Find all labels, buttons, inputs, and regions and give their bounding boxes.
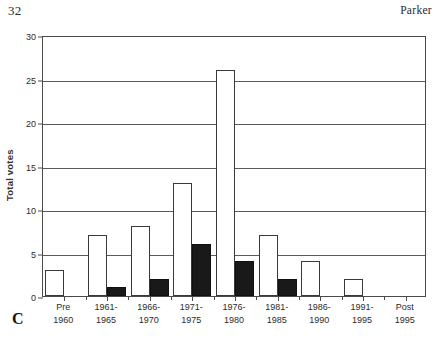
y-tick-mark <box>38 298 43 299</box>
x-category-label-line: 1971- <box>180 301 203 314</box>
x-category-label: 1981-1985 <box>265 301 288 327</box>
y-tick-label: 15 <box>26 163 36 173</box>
x-tick-mark-minor <box>86 296 87 300</box>
y-tick-label: 10 <box>26 206 36 216</box>
x-category-label-line: 1995 <box>395 314 415 327</box>
plot-area: 051015202530 <box>42 36 426 297</box>
x-tick-mark-minor <box>299 296 300 300</box>
x-tick-mark-minor <box>214 296 215 300</box>
x-category-label-line: 1991- <box>350 301 373 314</box>
x-category-label-line: 1980 <box>222 314 245 327</box>
x-category-label-line: 1986- <box>308 301 331 314</box>
x-category-label: 1971-1975 <box>180 301 203 327</box>
x-category-label-line: 1960 <box>53 314 73 327</box>
x-axis-labels: Pre19601961-19651966-19701971-19751976-1… <box>42 301 426 337</box>
x-category-label: 1961-1965 <box>94 301 117 327</box>
x-category-label: Pre1960 <box>53 301 73 327</box>
x-category-label-line: 1961- <box>94 301 117 314</box>
bar-white <box>259 235 278 296</box>
bar-black <box>150 279 169 296</box>
y-tick-label: 20 <box>26 119 36 129</box>
x-category-label-line: 1981- <box>265 301 288 314</box>
x-category-label: 1986-1990 <box>308 301 331 327</box>
bar-white <box>344 279 363 296</box>
bar-white <box>131 226 150 296</box>
x-category-label-line: 1966- <box>137 301 160 314</box>
bar-black <box>107 287 126 296</box>
x-tick-mark-minor <box>384 296 385 300</box>
x-category-label-line: Pre <box>53 301 73 314</box>
bar-white <box>45 270 64 296</box>
x-category-label: 1991-1995 <box>350 301 373 327</box>
running-head: 32 Parker <box>0 0 442 24</box>
y-tick-label: 5 <box>31 250 36 260</box>
x-tick-mark-minor <box>256 296 257 300</box>
x-category-label-line: 1976- <box>222 301 245 314</box>
x-category-label-line: 1970 <box>137 314 160 327</box>
bar-black <box>278 279 297 296</box>
x-category-label-line: 1995 <box>350 314 373 327</box>
bar-white <box>88 235 107 296</box>
x-tick-mark-minor <box>128 296 129 300</box>
figure-panel-c: Total votes 051015202530 Pre19601961-196… <box>0 24 442 338</box>
bar-white <box>173 183 192 296</box>
y-tick-label: 30 <box>26 32 36 42</box>
x-category-label: Post1995 <box>395 301 415 327</box>
x-category-label: 1966-1970 <box>137 301 160 327</box>
x-category-label-line: 1985 <box>265 314 288 327</box>
bar-series-group <box>43 37 425 296</box>
running-head-author: Parker <box>400 4 432 16</box>
page-number: 32 <box>8 3 21 19</box>
bar-black <box>235 261 254 296</box>
x-category-label-line: Post <box>395 301 415 314</box>
bar-white <box>216 70 235 296</box>
x-category-label-line: 1990 <box>308 314 331 327</box>
x-tick-mark-minor <box>342 296 343 300</box>
panel-letter: C <box>12 310 24 328</box>
y-axis-title: Total votes <box>2 130 18 220</box>
y-tick-label: 25 <box>26 76 36 86</box>
x-category-label-line: 1965 <box>94 314 117 327</box>
x-category-label-line: 1975 <box>180 314 203 327</box>
x-category-label: 1976-1980 <box>222 301 245 327</box>
bar-white <box>301 261 320 296</box>
x-tick-mark-minor <box>171 296 172 300</box>
y-tick-label: 0 <box>31 293 36 303</box>
bar-black <box>192 244 211 296</box>
